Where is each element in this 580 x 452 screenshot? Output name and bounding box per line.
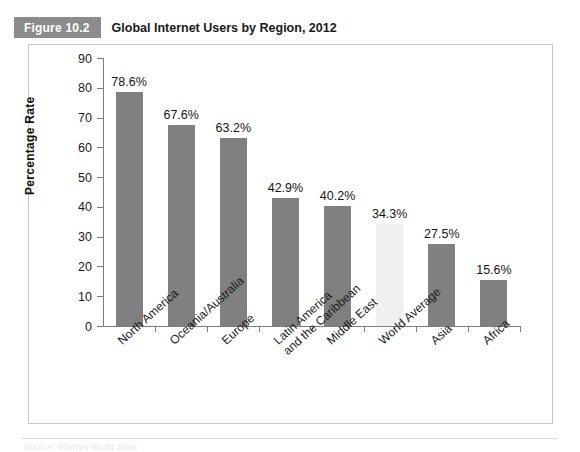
- y-axis-tick-label: 30: [78, 230, 92, 244]
- y-axis-tick-label: 80: [78, 81, 92, 95]
- bar-value-label: 42.9%: [268, 181, 303, 195]
- plot-area: 78.6%67.6%63.2%42.9%40.2%34.3%27.5%15.6%: [103, 58, 520, 326]
- bar: 78.6%: [116, 92, 143, 326]
- bottom-divider: [22, 438, 558, 439]
- x-axis-tick: [364, 326, 365, 332]
- y-axis-tick-label: 60: [78, 141, 92, 155]
- y-axis-tick-label: 10: [78, 290, 92, 304]
- bar: 42.9%: [272, 198, 299, 326]
- x-axis-tick: [207, 326, 208, 332]
- bar-value-label: 63.2%: [216, 121, 251, 135]
- y-axis-title: Percentage Rate: [23, 96, 37, 195]
- bar-value-label: 67.6%: [163, 108, 198, 122]
- y-axis-tick-label: 50: [78, 171, 92, 185]
- y-axis-tick-label: 70: [78, 111, 92, 125]
- y-axis-tick-label: 20: [78, 260, 92, 274]
- x-axis-tick: [155, 326, 156, 332]
- x-axis-tick: [468, 326, 469, 332]
- figure-header: Figure 10.2 Global Internet Users by Reg…: [14, 17, 566, 38]
- x-axis-tick: [520, 326, 521, 332]
- x-axis-tick: [416, 326, 417, 332]
- y-axis-tick-label: 90: [78, 52, 92, 66]
- bar-value-label: 40.2%: [320, 189, 355, 203]
- y-axis-tick-label: 0: [85, 320, 92, 334]
- y-axis-tick: 0: [97, 326, 103, 327]
- x-axis-tick: [259, 326, 260, 332]
- bar-value-label: 34.3%: [372, 207, 407, 221]
- figure-title: Global Internet Users by Region, 2012: [101, 17, 337, 38]
- bar-value-label: 15.6%: [476, 263, 511, 277]
- y-axis-tick-label: 40: [78, 200, 92, 214]
- source-note: Source: Internet World Stats: [24, 442, 137, 452]
- figure-number-badge: Figure 10.2: [14, 17, 101, 38]
- bar-value-label: 78.6%: [111, 75, 146, 89]
- bar: 34.3%: [376, 224, 403, 326]
- chart-frame: Percentage Rate 9080706050403020100 78.6…: [28, 44, 553, 424]
- bar-value-label: 27.5%: [424, 227, 459, 241]
